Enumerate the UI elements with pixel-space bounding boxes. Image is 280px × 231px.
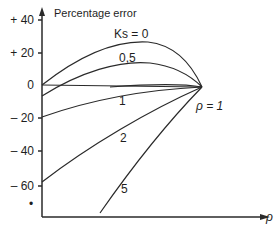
label-ks-0: Ks = 0 xyxy=(114,27,149,41)
y-axis-arrow-icon xyxy=(39,7,45,16)
tick-label-plus40: + 40 xyxy=(10,13,34,27)
label-rho-equals-1: ρ = 1 xyxy=(195,99,223,113)
percentage-error-chart: + 40 + 20 0 – 20 – 40 – 60 • Percentage … xyxy=(0,0,280,231)
tick-label-plus20: + 20 xyxy=(10,46,34,60)
tick-label-minus40: – 40 xyxy=(11,144,35,158)
label-ks-0-5: 0,5 xyxy=(119,51,136,65)
curve-ks-5 xyxy=(100,87,202,213)
x-axis-label: ρ xyxy=(265,210,273,224)
label-ks-1: 1 xyxy=(119,94,126,108)
label-ks-5: 5 xyxy=(121,182,128,196)
tick-label-zero: 0 xyxy=(27,78,34,92)
y-axis-label: Percentage error xyxy=(54,7,137,19)
axis-dot: • xyxy=(29,197,33,211)
tick-label-minus20: – 20 xyxy=(11,111,35,125)
tick-label-minus60: – 60 xyxy=(11,179,35,193)
label-ks-2: 2 xyxy=(120,131,127,145)
